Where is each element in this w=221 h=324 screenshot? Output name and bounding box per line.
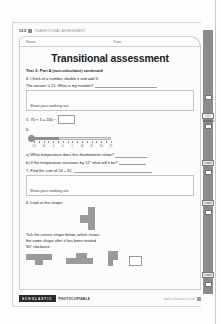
question-7-label: 7. Find the sum of 24 + 32.: [26, 168, 72, 173]
publisher-logo-icon: [28, 29, 32, 33]
shape-block: [66, 258, 93, 264]
thermometer-tick-label: 15: [90, 144, 93, 148]
option-shape-b[interactable]: [66, 251, 100, 267]
question-4-text: 4. I think of a number, double it and ad…: [26, 76, 194, 81]
thermometer-tick-label: -15: [32, 144, 36, 148]
worksheet-page[interactable]: 13.5 TRANSITIONAL ASSESSMENT Name Date T…: [12, 22, 208, 307]
running-head-label: TRANSITIONAL ASSESSMENT: [34, 29, 85, 33]
question-6b-answer-line[interactable]: [119, 160, 146, 165]
thermometer-tick-label: -10: [42, 144, 46, 148]
question-4-answer-line[interactable]: [95, 83, 157, 88]
option-tick-box[interactable]: [129, 256, 142, 266]
photocopiable-label: PHOTOCOPIABLE: [59, 297, 91, 301]
name-field-label: Name: [26, 40, 36, 44]
question-7: 7. Find the sum of 24 + 32.: [26, 168, 194, 173]
thermometer-scale-labels: -15 -10 -5 0 5 10 15 20 25: [30, 144, 116, 149]
shape-block: [88, 222, 95, 230]
question-8-text: 8. Look at this shape:: [26, 200, 194, 205]
option-shape-a[interactable]: [26, 251, 60, 267]
thermometer-tick-label: 20: [100, 144, 103, 148]
thermometer-mercury: [33, 137, 59, 140]
question-5-answer-box[interactable]: [58, 115, 75, 124]
document-viewer: 13.5 TRANSITIONAL ASSESSMENT Name Date T…: [0, 0, 221, 324]
thermometer-tick-label: 0: [62, 144, 64, 148]
question-6a: a) What temperature does this thermomete…: [26, 152, 194, 157]
test-subheading: Test 3: Part A (non-calculator) continue…: [26, 68, 194, 73]
question-6b: b) If the temperature increases by 12° w…: [26, 160, 194, 165]
instruction-line-3: 90° clockwise.: [26, 244, 51, 249]
question-8-instruction: Tick the correct shape below, which show…: [26, 232, 194, 249]
thermometer-tick-label: -5: [52, 144, 55, 148]
assessment-frame: Transitional assessment Test 3: Part A (…: [19, 46, 201, 290]
thermometer-diagram: -15 -10 -5 0 5 10 15 20 25: [28, 134, 194, 149]
rail-tab[interactable]: 1 note: [202, 200, 214, 206]
page-code: 13.5: [19, 29, 26, 33]
rail-marker[interactable]: [205, 95, 212, 100]
thermometer-tick-label: 5: [72, 144, 74, 148]
page-footer: SCHOLASTIC PHOTOCOPIABLE www.scholastic.…: [19, 294, 201, 303]
option-shape-d[interactable]: [128, 251, 142, 267]
question-5-row: 5. 70 × 3 = 240 −: [26, 115, 194, 124]
rail-tab[interactable]: 1 note: [202, 272, 214, 278]
shape-block: [112, 256, 118, 260]
thermometer-tick-label: 25: [109, 144, 112, 148]
footer-right-group: www.scholastic.co.uk: [164, 297, 201, 301]
question-5-equation: 5. 70 × 3 = 240 −: [26, 117, 56, 122]
working-prompt-4: Show your working out.: [30, 104, 69, 108]
rail-tab[interactable]: 1 bookmark: [202, 113, 214, 119]
option-shape-c[interactable]: [106, 251, 122, 267]
annotation-rail[interactable]: 1 bookmark 1 note 1 note 1 note: [201, 0, 221, 324]
question-4-followup-label: The answer is 51. What is my number?: [26, 83, 93, 88]
rail-divider: [215, 0, 216, 324]
rail-tab[interactable]: 1 note: [202, 160, 214, 166]
page-title: Transitional assessment: [26, 52, 194, 64]
question-8-options: [26, 251, 194, 267]
rail-marker[interactable]: [205, 170, 212, 175]
rail-marker[interactable]: [205, 282, 212, 287]
question-7-answer-line[interactable]: [74, 168, 152, 173]
page-running-head: 13.5 TRANSITIONAL ASSESSMENT: [19, 27, 201, 35]
thermometer-tick-label: 10: [80, 144, 83, 148]
working-prompt-7: Show your working out.: [30, 189, 69, 193]
footer-note: www.scholastic.co.uk: [164, 297, 195, 301]
question-6a-label: a) What temperature does this thermomete…: [26, 152, 114, 157]
question-6b-label: b) If the temperature increases by 12° w…: [26, 160, 118, 165]
question-4-working-box[interactable]: Show your working out.: [26, 90, 194, 111]
question-6-number: 6.: [26, 127, 194, 132]
date-field-label: Date: [114, 40, 122, 44]
instruction-line-2: the same shape after it has been rotated: [26, 238, 96, 243]
publisher-badge: SCHOLASTIC: [19, 295, 56, 302]
question-4-followup: The answer is 51. What is my number?: [26, 83, 194, 88]
rail-marker[interactable]: [205, 124, 212, 129]
instruction-line-1: Tick the correct shape below, which show…: [26, 232, 99, 237]
question-6a-answer-line[interactable]: [115, 153, 147, 158]
rail-marker[interactable]: [205, 210, 212, 215]
shape-block: [35, 259, 43, 265]
question-7-working-box[interactable]: Show your working out.: [26, 175, 194, 196]
question-8-shape-diagram: [26, 207, 194, 230]
